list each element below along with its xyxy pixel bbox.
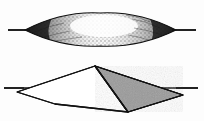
figure-canvas: Two geometric solids crossed by a horizo…	[0, 0, 204, 121]
figure-root: Two geometric solids crossed by a horizo…	[0, 0, 204, 121]
lens-center-highlight	[70, 15, 138, 37]
upper-figure-group	[8, 8, 196, 52]
lower-figure-group	[4, 66, 198, 112]
